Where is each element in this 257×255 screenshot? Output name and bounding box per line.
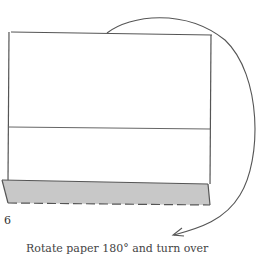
step-number: 6 xyxy=(4,214,11,227)
folded-flap xyxy=(2,180,210,205)
paper-rectangle xyxy=(8,32,212,184)
fold-crease-line xyxy=(9,127,210,129)
instruction-caption: Rotate paper 180° and turn over xyxy=(26,242,208,255)
